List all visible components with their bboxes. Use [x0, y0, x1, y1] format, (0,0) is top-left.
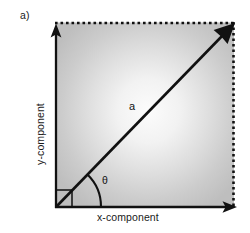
angle-theta-label: θ	[102, 174, 108, 186]
y-axis-label: y-component	[34, 83, 46, 185]
vector-components-figure: a) a θ x-component y-component	[0, 0, 250, 233]
panel-label: a)	[20, 9, 30, 21]
x-axis-label: x-component	[97, 211, 159, 223]
vector-magnitude-label: a	[129, 100, 135, 112]
